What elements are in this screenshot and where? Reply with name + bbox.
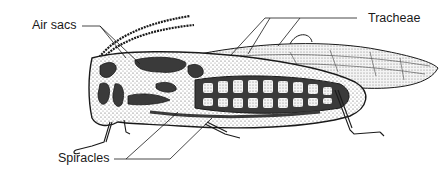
label-tracheae: Tracheae <box>368 12 420 25</box>
label-spiracles: Spiracles <box>58 152 109 165</box>
insect-respiratory-diagram: Air sacs Tracheae Spiracles <box>0 0 444 173</box>
label-air-sacs: Air sacs <box>32 19 76 32</box>
